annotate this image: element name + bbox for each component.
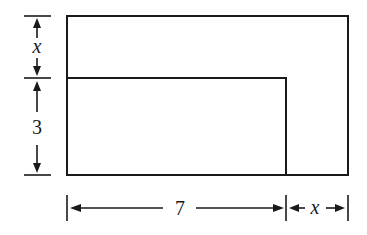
arrow-right-icon: [335, 204, 345, 212]
left-dimension-3: 3: [24, 81, 51, 175]
arrow-up-icon: [33, 81, 41, 91]
rectangle-diagram: x 3 7 x: [0, 0, 367, 235]
arrow-down-icon: [33, 163, 41, 173]
arrow-left-icon: [70, 204, 81, 212]
arrow-left-icon: [289, 204, 299, 212]
inner-rectangle-edges: [67, 78, 286, 175]
outer-rectangle: [67, 16, 348, 175]
arrow-right-icon: [273, 204, 284, 212]
bottom-dimension-x: x: [289, 195, 348, 221]
label-bottom-x: x: [310, 196, 320, 218]
bottom-dimension-7: 7: [67, 195, 286, 221]
label-left-3: 3: [32, 116, 42, 138]
label-left-x: x: [32, 35, 42, 57]
label-bottom-7: 7: [175, 197, 185, 219]
arrow-down-icon: [33, 66, 41, 76]
arrow-up-icon: [33, 18, 41, 28]
left-dimension-x: x: [24, 16, 51, 78]
